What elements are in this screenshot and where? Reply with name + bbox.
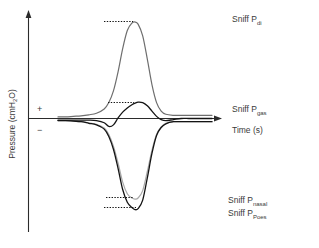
series-label-pdi-subscript: di: [257, 20, 262, 26]
series-line-pnasal: [58, 121, 212, 200]
y-axis-title: Pressure (cmH2O): [7, 89, 18, 159]
series-label-pdi: Sniff Pdi: [232, 14, 262, 26]
series-line-ppoes: [58, 121, 212, 210]
series-label-ppoes-main: Sniff P: [228, 208, 253, 218]
series-label-pgas: Sniff Pgas: [232, 104, 267, 116]
svg-text:Pressure (cmH2O): Pressure (cmH2O): [7, 89, 18, 159]
x-axis-arrowhead: [214, 116, 222, 122]
pressure-waveform-chart: + − Pressure (cmH2O) Time (s) Sniff Pdi …: [0, 0, 319, 248]
axis-plus-sign: +: [37, 104, 42, 114]
series-label-pgas-main: Sniff P: [232, 104, 257, 114]
series-label-ppoes-subscript: Poes: [253, 214, 267, 220]
series-label-pnasal-subscript: nasal: [253, 201, 267, 207]
x-axis-title: Time (s): [232, 125, 263, 135]
series-label-pnasal: Sniff Pnasal: [228, 195, 267, 207]
series-label-pnasal-main: Sniff P: [228, 195, 253, 205]
series-line-pgas: [58, 102, 212, 127]
series-label-pdi-main: Sniff P: [232, 14, 257, 24]
y-axis-arrowhead: [26, 10, 32, 18]
axis-minus-sign: −: [37, 125, 42, 135]
series-label-pgas-subscript: gas: [257, 110, 267, 116]
figure-root: + − Pressure (cmH2O) Time (s) Sniff Pdi …: [0, 0, 319, 248]
series-label-ppoes: Sniff PPoes: [228, 208, 267, 220]
y-axis-title-tail: O): [7, 89, 17, 99]
y-axis-title-main: Pressure (cmH: [7, 102, 17, 159]
